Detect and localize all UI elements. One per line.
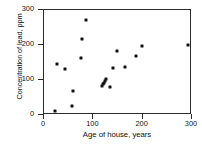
data-point — [108, 86, 111, 89]
y-axis-tick-label: 0 — [10, 110, 34, 117]
y-axis-tick-label: 100 — [10, 75, 34, 82]
y-axis-title: Concentration of lead, ppm — [15, 1, 24, 113]
data-point — [71, 105, 74, 108]
plot-area — [43, 9, 191, 114]
data-point — [80, 56, 83, 59]
data-point — [53, 110, 56, 113]
y-axis-tick-label: 200 — [10, 40, 34, 47]
data-point — [64, 67, 67, 70]
data-point — [71, 90, 74, 93]
data-point — [81, 37, 84, 40]
data-point — [112, 67, 115, 70]
scatter-chart: Concentration of lead, ppm 0100200300 01… — [0, 0, 202, 144]
data-point — [116, 49, 119, 52]
x-axis-title: Age of house, years — [43, 130, 191, 139]
data-points-layer — [44, 10, 190, 113]
data-point — [56, 62, 59, 65]
x-axis-tick-label: 100 — [79, 120, 105, 127]
data-point — [85, 18, 88, 21]
x-axis-tick-label: 0 — [30, 120, 56, 127]
data-point — [123, 66, 126, 69]
data-point — [140, 44, 143, 47]
data-point — [187, 44, 190, 47]
x-axis-tick-label: 300 — [178, 120, 202, 127]
y-axis-tick-label: 300 — [10, 5, 34, 12]
data-point — [134, 54, 137, 57]
x-axis-tick-label: 200 — [129, 120, 155, 127]
data-point — [104, 78, 107, 81]
